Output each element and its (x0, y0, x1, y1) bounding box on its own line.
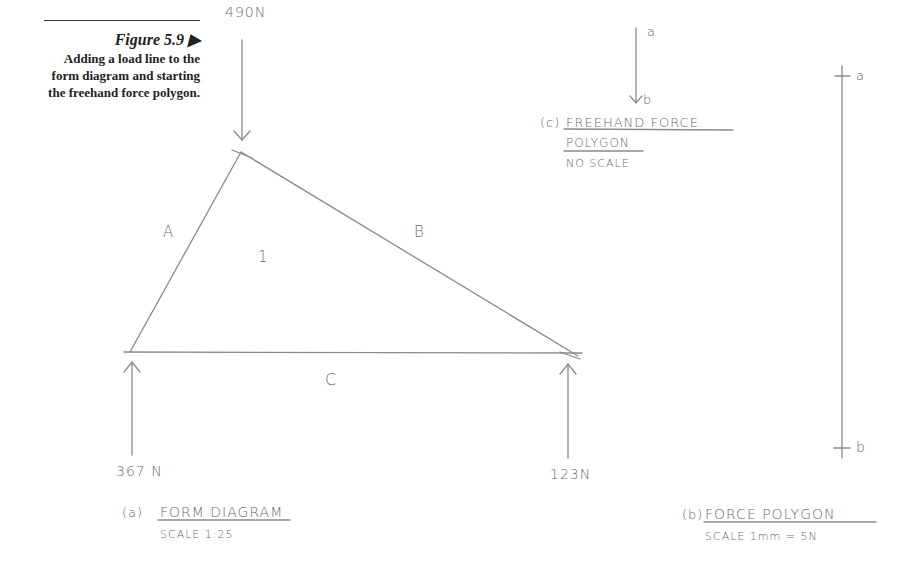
force-scale: SCALE 1mm = 5N (705, 530, 818, 543)
form-scale: SCALE 1:25 (160, 528, 233, 541)
member-a-line (130, 152, 241, 352)
form-title: FORM DIAGRAM (160, 504, 283, 520)
joint-tick-top (232, 150, 252, 158)
freehand-point-b: b (643, 92, 652, 107)
space-label-1: 1 (258, 248, 269, 266)
force-point-b: b (856, 439, 866, 455)
reaction-right-label: 123N (550, 466, 591, 482)
space-label-c: C (325, 370, 337, 389)
member-c-line (124, 352, 582, 353)
space-label-a: A (163, 223, 174, 241)
member-b-line (241, 152, 578, 356)
diagram-canvas: 490N A 1 B C 367 N 123N (a) FORM DIAGRAM… (0, 0, 924, 567)
space-label-b: B (414, 223, 425, 241)
force-point-a: a (856, 68, 865, 83)
reaction-left-label: 367 N (116, 463, 163, 479)
form-title-prefix: (a) (122, 505, 143, 520)
freehand-title-line1: FREEHAND FORCE (566, 115, 699, 130)
force-title: FORCE POLYGON (705, 506, 835, 522)
freehand-title-line2: POLYGON (566, 136, 630, 150)
freehand-title-prefix: (c) (540, 115, 560, 130)
freehand-scale: NO SCALE (566, 157, 630, 170)
force-title-prefix: (b) (682, 507, 703, 522)
freehand-point-a: a (647, 24, 656, 39)
load-label: 490N (225, 4, 266, 20)
